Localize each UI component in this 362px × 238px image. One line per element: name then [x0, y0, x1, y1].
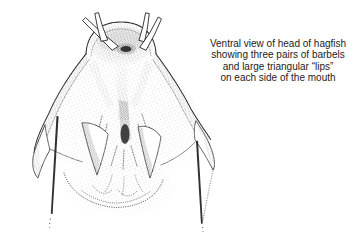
oral-barbel-right	[196, 141, 203, 224]
caption-line-1: Ventral view of head of hagfish	[190, 38, 362, 49]
hagfish-illustration	[0, 0, 245, 238]
lower-body-speckle	[67, 160, 177, 216]
caption-line-2: showing three pairs of barbels	[190, 49, 362, 60]
nostril-opening	[121, 46, 132, 52]
mouth-opening	[121, 124, 130, 144]
caption: Ventral view of head of hagfish showing …	[190, 38, 362, 84]
hagfish-drawing-group	[30, 13, 215, 232]
caption-line-3: and large triangular “lips”	[190, 61, 362, 72]
figure-panel: Ventral view of head of hagfish showing …	[0, 0, 362, 238]
caption-line-4: on each side of the mouth	[190, 72, 362, 83]
